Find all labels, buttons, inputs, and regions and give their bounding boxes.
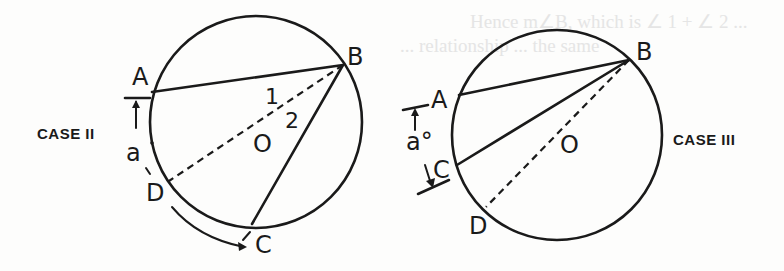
case-ii-chord-ab [152, 65, 343, 92]
case-ii-tick-c [243, 232, 250, 240]
case-ii-curved-arrow [172, 207, 244, 247]
case-iii-label-b: B [636, 38, 652, 66]
case-iii-arc-label: a° [406, 128, 433, 156]
case-ii-angle-1: 1 [265, 84, 279, 109]
case-ii-diagram: CASE II a A B C D O 1 2 [37, 16, 363, 259]
case-iii-title: CASE III [673, 131, 735, 148]
geometry-figure: Hence m∠B, which is ∠ 1 + ∠ 2 ... ... re… [0, 0, 784, 271]
ghost-line-1: Hence m∠B, which is ∠ 1 + ∠ 2 ... [470, 11, 748, 32]
case-iii-label-o: O [560, 131, 579, 159]
case-ii-arc-dot [150, 141, 154, 145]
case-iii-label-d: D [469, 212, 487, 240]
case-iii-label-a: A [431, 86, 448, 114]
case-iii-chord-ab [459, 60, 629, 95]
case-ii-diameter-bd [169, 65, 343, 181]
case-ii-curved-arrowhead-icon [238, 242, 247, 251]
case-ii-title: CASE II [37, 125, 95, 142]
case-ii-label-c: C [255, 231, 272, 259]
case-iii-label-c: C [433, 156, 450, 184]
bleed-through-text: Hence m∠B, which is ∠ 1 + ∠ 2 ... ... re… [400, 11, 748, 56]
case-ii-angle-2: 2 [285, 108, 299, 133]
case-ii-label-b: B [347, 43, 363, 71]
case-ii-arc-label: a [126, 139, 141, 167]
case-iii-diagram: CASE III a° A B C D O [403, 30, 735, 240]
case-ii-label-o: O [253, 130, 272, 158]
case-ii-circle [150, 16, 362, 228]
case-ii-label-d: D [146, 179, 164, 207]
case-iii-circle [452, 30, 662, 240]
case-ii-arrowhead-up-icon [132, 100, 140, 108]
case-ii-label-a: A [132, 63, 149, 91]
case-ii-arrow-stub [146, 168, 150, 174]
